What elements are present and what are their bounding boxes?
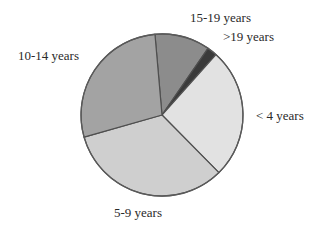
pie-slices	[81, 34, 243, 196]
label-5-9-years: 5-9 years	[114, 205, 162, 221]
label-under-4-years: < 4 years	[256, 108, 304, 124]
label-over-19-years: >19 years	[223, 29, 274, 45]
label-10-14-years: 10-14 years	[18, 48, 79, 64]
label-15-19-years: 15-19 years	[190, 10, 251, 26]
